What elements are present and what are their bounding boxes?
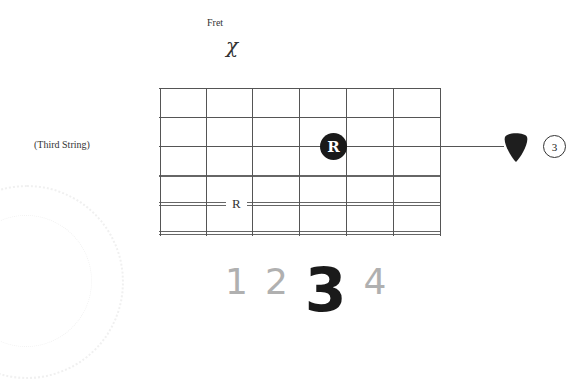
fret-line bbox=[160, 88, 161, 236]
fret-line bbox=[440, 88, 441, 236]
root-note-dot: R bbox=[320, 133, 347, 160]
fret-line bbox=[299, 88, 300, 236]
string-2 bbox=[159, 117, 441, 118]
string-1 bbox=[159, 88, 441, 89]
finger-2: 2 bbox=[265, 262, 288, 302]
fret-line bbox=[252, 88, 253, 236]
finger-1: 1 bbox=[225, 262, 248, 302]
fret-line bbox=[346, 88, 347, 236]
open-root-label: R bbox=[226, 196, 247, 212]
finger-numbers: 1 2 3 4 bbox=[225, 262, 403, 320]
fret-label: Fret bbox=[207, 17, 223, 28]
string-4 bbox=[159, 175, 441, 177]
finger-3-active: 3 bbox=[305, 260, 347, 320]
fret-line bbox=[393, 88, 394, 236]
string-6 bbox=[159, 231, 441, 235]
string-label: (Third String) bbox=[34, 139, 90, 150]
string-number-badge: 3 bbox=[543, 135, 566, 158]
guitar-pick-icon bbox=[503, 131, 529, 163]
fret-line bbox=[206, 88, 207, 236]
fret-value: χ bbox=[226, 34, 238, 58]
finger-4: 4 bbox=[364, 262, 387, 302]
string-5 bbox=[159, 202, 441, 206]
